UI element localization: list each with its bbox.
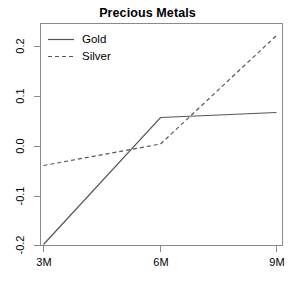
legend-label-silver: Silver bbox=[82, 50, 111, 62]
x-axis-ticks bbox=[44, 246, 277, 252]
y-tick-label-0.0: 0.0 bbox=[14, 133, 26, 159]
y-tick-label-0.1: 0.1 bbox=[14, 83, 26, 109]
y-axis-ticks bbox=[34, 47, 40, 246]
x-tick-label-6m: 6M bbox=[141, 256, 181, 268]
plot-area-svg bbox=[0, 0, 295, 285]
plot-frame bbox=[41, 24, 283, 246]
x-tick-label-9m: 9M bbox=[257, 256, 295, 268]
y-tick-label--0.1: -0.1 bbox=[14, 180, 26, 212]
series-line-silver bbox=[44, 36, 277, 166]
chart-container: Precious Metals 0.2 0.1 0.0 -0.1 -0.2 bbox=[0, 0, 295, 285]
y-tick-label-0.2: 0.2 bbox=[14, 33, 26, 59]
series-line-gold bbox=[44, 113, 277, 245]
legend-label-gold: Gold bbox=[82, 33, 106, 45]
x-tick-label-3m: 3M bbox=[24, 256, 64, 268]
